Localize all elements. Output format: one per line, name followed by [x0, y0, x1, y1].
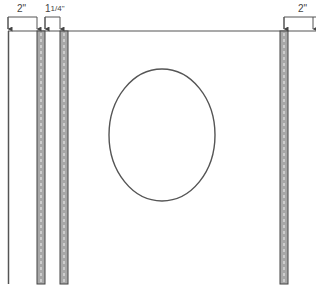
dimension-label-right: 2": [298, 3, 308, 14]
strip-1: [37, 31, 45, 284]
dimension-left-margin: 2": [8, 3, 37, 29]
diagram-canvas: 2" 11/4" 2": [0, 0, 316, 297]
dimension-label-spacing-fraction: 1/4": [51, 4, 65, 13]
dimension-right-margin: 2": [284, 3, 316, 29]
dimension-strip-spacing: 11/4": [45, 3, 65, 29]
dimension-label-spacing: 11/4": [45, 3, 65, 14]
strip-2: [60, 31, 68, 284]
dimension-label-left: 2": [17, 3, 27, 14]
oval-cutout: [109, 69, 215, 201]
strip-3: [280, 31, 288, 284]
